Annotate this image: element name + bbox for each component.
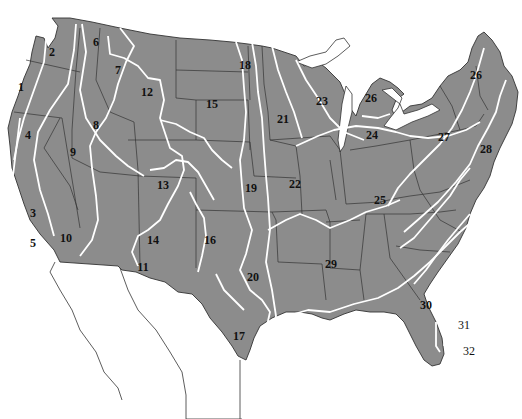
zone-label-31: 31 (458, 319, 470, 331)
zone-label-14: 14 (147, 234, 159, 246)
zone-label-2: 2 (49, 46, 55, 58)
zone-label-7: 7 (115, 64, 121, 76)
zone-label-18: 18 (239, 59, 251, 71)
zone-label-26: 26 (470, 69, 482, 81)
us-zone-map (0, 0, 522, 419)
zone-label-19: 19 (245, 182, 257, 194)
zone-label-25: 25 (374, 194, 386, 206)
zone-label-5: 5 (30, 237, 36, 249)
lake-superior (296, 38, 350, 68)
zone-label-15: 15 (206, 98, 218, 110)
zone-label-10: 10 (60, 232, 72, 244)
zone-label-1: 1 (18, 81, 24, 93)
zone-label-30: 30 (420, 299, 432, 311)
zone-label-22: 22 (289, 178, 301, 190)
zone-label-27: 27 (438, 131, 450, 143)
zone-label-26: 26 (365, 92, 377, 104)
zone-label-21: 21 (277, 113, 289, 125)
zone-label-29: 29 (325, 258, 337, 270)
zone-label-23: 23 (316, 95, 328, 107)
zone-label-9: 9 (70, 146, 76, 158)
zone-label-24: 24 (366, 129, 378, 141)
zone-label-11: 11 (137, 261, 148, 273)
zone-label-20: 20 (247, 271, 259, 283)
zone-label-16: 16 (204, 234, 216, 246)
zone-label-32: 32 (463, 345, 475, 357)
zone-label-17: 17 (233, 330, 245, 342)
zone-label-3: 3 (30, 207, 36, 219)
zone-label-8: 8 (93, 119, 99, 131)
zone-label-12: 12 (141, 86, 153, 98)
zone-label-13: 13 (157, 179, 169, 191)
zone-label-4: 4 (25, 129, 31, 141)
zone-label-6: 6 (93, 36, 99, 48)
zone-label-28: 28 (480, 143, 492, 155)
